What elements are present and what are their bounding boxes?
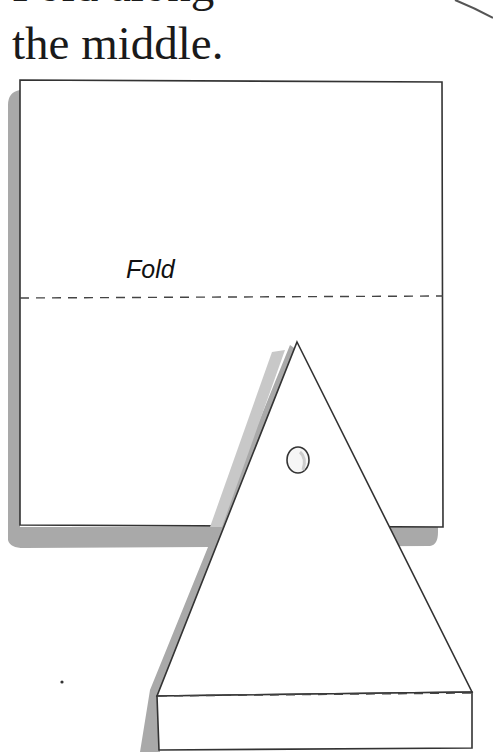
- stray-dot: [60, 680, 63, 683]
- triangle-base-flap: [157, 692, 472, 750]
- square-paper: [20, 80, 443, 527]
- decorative-curve: [455, 0, 493, 18]
- fold-label: Fold: [126, 255, 175, 284]
- folding-illustration: [0, 0, 493, 752]
